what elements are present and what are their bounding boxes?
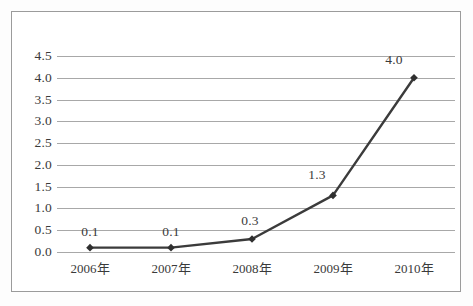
y-axis-tick-label: 4.5 <box>12 49 52 63</box>
plot-area: 0.10.10.31.34.0 <box>57 56 455 252</box>
gridline <box>57 252 455 253</box>
y-axis-tick-label: 4.0 <box>12 71 52 85</box>
y-axis-tick-label: 2.0 <box>12 158 52 172</box>
y-axis-tick-label: 3.0 <box>12 114 52 128</box>
y-axis-tick-label: 0.0 <box>12 245 52 259</box>
x-axis-tick-label: 2007年 <box>152 262 191 275</box>
y-axis-tick-label: 3.5 <box>12 93 52 107</box>
chart-figure: 0.00.51.01.52.02.53.03.54.04.5 0.10.10.3… <box>0 0 473 306</box>
data-point-label: 1.3 <box>308 168 325 182</box>
x-axis-tick-label: 2006年 <box>71 262 110 275</box>
y-axis-tick-label: 1.5 <box>12 180 52 194</box>
x-axis-tick-label: 2008年 <box>233 262 272 275</box>
y-axis-tick-label: 1.0 <box>12 201 52 215</box>
data-point-label: 0.1 <box>81 224 98 238</box>
x-axis-tick-label: 2009年 <box>314 262 353 275</box>
x-axis: 2006年2007年2008年2009年2010年 <box>57 262 455 284</box>
y-axis-tick-label: 0.5 <box>12 223 52 237</box>
data-point-marker <box>167 244 175 252</box>
data-point-label: 0.3 <box>241 213 258 227</box>
x-axis-tick-label: 2010年 <box>395 262 434 275</box>
data-point-label: 0.1 <box>162 224 179 238</box>
data-point-label: 4.0 <box>385 52 402 66</box>
data-point-marker <box>86 244 94 252</box>
y-axis-tick-label: 2.5 <box>12 136 52 150</box>
y-axis: 0.00.51.01.52.02.53.03.54.04.5 <box>8 56 52 252</box>
